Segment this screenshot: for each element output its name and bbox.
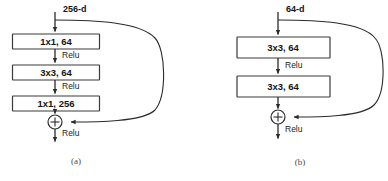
panel-a-relu-1-label: Relu	[62, 50, 80, 60]
panel-a: 256-d 1x1, 64 Relu 3x3, 64 Relu 1x1, 256	[13, 4, 164, 166]
panel-b-block-2-label: 3x3, 64	[267, 81, 299, 92]
figure-canvas: 256-d 1x1, 64 Relu 3x3, 64 Relu 1x1, 256	[0, 0, 388, 181]
panel-a-relu-2-label: Relu	[62, 81, 80, 91]
residual-block-diagram: 256-d 1x1, 64 Relu 3x3, 64 Relu 1x1, 256	[0, 0, 388, 181]
panel-a-input-dim-label: 256-d	[63, 4, 87, 14]
panel-a-relu-3-label: Relu	[62, 128, 80, 138]
panel-b-relu-2-label: Relu	[285, 124, 303, 134]
panel-a-block-3-label: 1x1, 256	[38, 98, 75, 109]
panel-b-sum-node	[271, 110, 285, 124]
panel-b: 64-d 3x3, 64 Relu 3x3, 64 Relu	[237, 4, 383, 167]
panel-b-input-dim-label: 64-d	[286, 4, 305, 14]
panel-a-block-1-label: 1x1, 64	[40, 36, 72, 47]
panel-a-caption: (a)	[71, 156, 81, 166]
panel-b-block-1-label: 3x3, 64	[267, 42, 299, 53]
panel-a-block-2-label: 3x3, 64	[40, 67, 72, 78]
panel-b-caption: (b)	[295, 157, 306, 167]
panel-b-relu-1-label: Relu	[285, 60, 303, 70]
panel-a-sum-node	[48, 115, 62, 129]
